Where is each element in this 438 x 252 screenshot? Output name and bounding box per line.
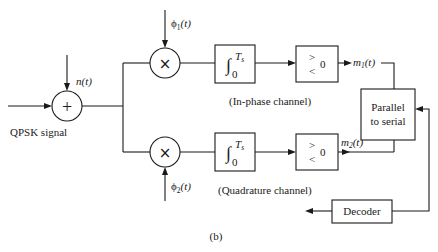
phi1-label: ϕ1(t) bbox=[171, 17, 191, 32]
phi1-arrowhead bbox=[162, 40, 168, 48]
quadrature-channel-label: (Quadrature channel) bbox=[218, 184, 312, 197]
quadrature-comparator-box bbox=[296, 134, 338, 170]
quadrature-comparator-threshold: 0 bbox=[320, 146, 326, 158]
decoder-output-arrowhead bbox=[305, 208, 313, 214]
p2s-label-line2: to serial bbox=[370, 115, 405, 127]
quadrature-integrator: ∫ Ts 0 bbox=[215, 133, 255, 171]
decoder-label: Decoder bbox=[343, 205, 381, 217]
quadrature-basis-input bbox=[162, 167, 168, 201]
inphase-comp-out-arrowhead bbox=[344, 60, 352, 66]
quadrature-int-to-comp-arrowhead bbox=[288, 149, 296, 155]
m1-to-p2s-line bbox=[381, 63, 394, 89]
quadrature-multiplier: × bbox=[150, 137, 180, 167]
plus-icon: + bbox=[62, 97, 72, 117]
multiply-icon: × bbox=[159, 144, 172, 162]
parallel-to-serial-block: Parallel to serial bbox=[361, 89, 415, 140]
qpsk-signal-label: QPSK signal bbox=[10, 126, 67, 138]
m2-label: m2(t) bbox=[341, 136, 363, 150]
inphase-channel-label: (In-phase channel) bbox=[229, 95, 311, 108]
noise-input bbox=[64, 55, 70, 91]
quadrature-integrator-lower: 0 bbox=[232, 156, 238, 168]
quadrature-comparator-lt: < bbox=[309, 153, 315, 165]
inphase-int-to-comp-arrowhead bbox=[288, 60, 296, 66]
inphase-multiplier: × bbox=[150, 48, 180, 78]
multiply-icon: × bbox=[159, 55, 172, 73]
inphase-comparator-gt: > bbox=[309, 51, 315, 63]
phi2-label: ϕ2(t) bbox=[171, 180, 191, 195]
inphase-integrator-lower: 0 bbox=[232, 68, 238, 80]
input-arrowhead bbox=[44, 103, 52, 109]
quadrature-comparator-gt: > bbox=[309, 139, 315, 151]
noise-label: n(t) bbox=[76, 75, 92, 88]
noise-arrowhead bbox=[64, 83, 70, 91]
m1-label: m1(t) bbox=[353, 56, 375, 70]
inphase-comparator-box bbox=[296, 46, 338, 82]
inphase-basis-input bbox=[162, 10, 168, 48]
p2s-input-arrowhead bbox=[415, 106, 423, 112]
phi2-arrowhead bbox=[162, 167, 168, 175]
inphase-comparator-lt: < bbox=[309, 65, 315, 77]
input-path bbox=[8, 103, 52, 109]
inphase-comparator: > < 0 bbox=[296, 46, 338, 82]
inphase-comparator-threshold: 0 bbox=[320, 58, 326, 70]
figure-caption: (b) bbox=[210, 230, 223, 243]
inphase-integrator: ∫ Ts 0 bbox=[215, 45, 255, 83]
p2s-label-line1: Parallel bbox=[371, 101, 405, 113]
summing-junction: + bbox=[52, 91, 82, 121]
qpsk-receiver-diagram: QPSK signal n(t) + ϕ1(t) × ∫ Ts 0 > < 0 … bbox=[0, 0, 438, 252]
decoder-block: Decoder bbox=[332, 200, 392, 223]
quadrature-comparator: > < 0 bbox=[296, 134, 338, 170]
